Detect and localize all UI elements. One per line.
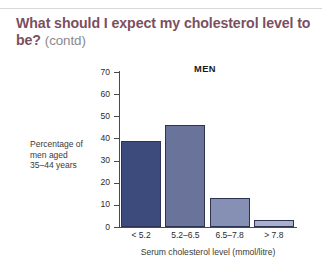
y-axis-tick-label: 50 bbox=[84, 112, 110, 121]
x-axis-line bbox=[119, 227, 297, 228]
y-axis-tick-value: 40 bbox=[84, 134, 110, 143]
y-axis-tick bbox=[114, 94, 119, 95]
bar-1 bbox=[121, 141, 161, 227]
y-axis-tick-label: 30 bbox=[84, 156, 110, 165]
y-axis-title-line-3: 35–44 years bbox=[30, 160, 92, 171]
bar-4 bbox=[254, 220, 294, 227]
y-axis-tick-value: 50 bbox=[84, 112, 110, 121]
y-axis-tick-label: 0 bbox=[84, 223, 110, 232]
y-axis-tick-label: 20 bbox=[84, 178, 110, 187]
x-axis-title: Serum cholesterol level (mmol/litre) bbox=[119, 247, 297, 257]
y-axis-tick bbox=[114, 227, 119, 228]
y-axis-tick bbox=[114, 138, 119, 139]
y-axis-tick-value: 60 bbox=[84, 90, 110, 99]
y-axis-tick-value: 10 bbox=[84, 200, 110, 209]
y-axis-tick bbox=[114, 205, 119, 206]
bar-2 bbox=[165, 125, 205, 227]
y-axis-title-line-1: Percentage of bbox=[30, 139, 92, 150]
y-axis-tick-label: 40 bbox=[84, 134, 110, 143]
y-axis-tick-label: 60 bbox=[84, 90, 110, 99]
x-axis-tick-label: < 5.2 bbox=[119, 231, 163, 240]
plot-area bbox=[119, 72, 296, 227]
y-axis-tick-value: 70 bbox=[84, 68, 110, 77]
y-axis-tick-value: 20 bbox=[84, 178, 110, 187]
y-axis-title: Percentage of men aged 35–44 years bbox=[30, 139, 92, 171]
x-axis-tick-label: > 7.8 bbox=[252, 231, 296, 240]
y-axis-tick-label: 10 bbox=[84, 200, 110, 209]
bar-3 bbox=[210, 198, 250, 227]
y-axis-tick-label: 70 bbox=[84, 68, 110, 77]
y-axis-tick bbox=[114, 183, 119, 184]
y-axis-tick bbox=[114, 116, 119, 117]
cholesterol-bar-chart: MEN Percentage of men aged 35–44 years S… bbox=[0, 0, 322, 267]
y-axis-tick-value: 0 bbox=[84, 223, 110, 232]
y-axis-title-line-2: men aged bbox=[30, 150, 92, 161]
page-root: What should I expect my cholesterol leve… bbox=[0, 0, 322, 267]
y-axis-tick bbox=[114, 72, 119, 73]
x-axis-tick-label: 5.2–6.5 bbox=[163, 231, 207, 240]
y-axis-tick-value: 30 bbox=[84, 156, 110, 165]
y-axis-tick bbox=[114, 161, 119, 162]
x-axis-tick-label: 6.5–7.8 bbox=[208, 231, 252, 240]
